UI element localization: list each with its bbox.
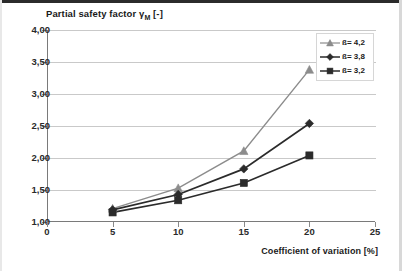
chart-title-main: Partial safety factor — [46, 8, 139, 19]
x-axis-tick-label: 0 — [32, 226, 62, 237]
chart-title-unit: [-] — [150, 8, 163, 19]
gridline-horizontal — [48, 190, 376, 191]
legend: ß= 4,2ß= 3,8ß= 3,2 — [316, 33, 374, 81]
figure-top-border — [0, 0, 402, 3]
y-axis-tick-label: 2,00 — [10, 152, 50, 163]
legend-item-label: ß= 3,8 — [342, 50, 365, 64]
gridline-horizontal — [48, 126, 376, 127]
legend-item: ß= 4,2 — [318, 36, 372, 50]
legend-item-label: ß= 4,2 — [342, 36, 365, 50]
legend-marker-square-icon — [319, 64, 341, 78]
figure-left-border — [0, 0, 2, 271]
y-axis-tick-label: 4,00 — [10, 24, 50, 35]
data-point-square — [327, 68, 333, 74]
data-point-diamond — [327, 54, 334, 61]
x-axis-tick-label: 15 — [229, 226, 259, 237]
legend-item: ß= 3,2 — [318, 64, 372, 78]
x-axis-title: Coefficient of variation [%] — [0, 246, 378, 256]
x-axis-tick-label: 20 — [294, 226, 324, 237]
x-axis-tick-label: 25 — [360, 226, 390, 237]
y-axis-tick-label: 3,00 — [10, 88, 50, 99]
x-axis-tick-label: 10 — [163, 226, 193, 237]
chart-title: Partial safety factor γM [-] — [46, 8, 163, 21]
chart-figure: Partial safety factor γM [-] ß= 4,2ß= 3,… — [0, 0, 402, 271]
y-axis-tick-label: 3,50 — [10, 56, 50, 67]
y-axis-tick-label: 2,50 — [10, 120, 50, 131]
gridline-horizontal — [48, 158, 376, 159]
y-axis-tick-label: 1,50 — [10, 184, 50, 195]
x-axis-tick-label: 5 — [98, 226, 128, 237]
legend-item-label: ß= 3,2 — [342, 64, 365, 78]
gridline-horizontal — [48, 94, 376, 95]
gridline-horizontal — [48, 30, 376, 31]
legend-item: ß= 3,8 — [318, 50, 372, 64]
legend-marker-triangle-icon — [319, 36, 341, 50]
legend-marker-diamond-icon — [319, 50, 341, 64]
